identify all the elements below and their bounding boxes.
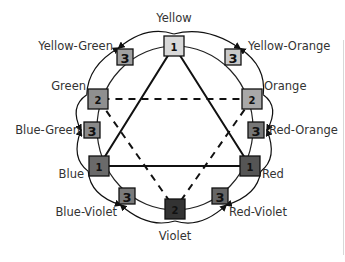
color-node-blue-violet: 3	[119, 188, 135, 205]
level-number: 1	[171, 42, 178, 53]
level-number: 1	[96, 162, 103, 173]
color-label-red-orange: Red-Orange	[269, 123, 338, 137]
level-number: 2	[249, 95, 256, 106]
color-label-orange: Orange	[264, 79, 307, 93]
color-label-red: Red	[262, 167, 284, 181]
color-node-red-orange: 3	[248, 122, 264, 139]
level-number: 3	[120, 51, 129, 66]
page-edge-divider	[343, 40, 344, 255]
color-label-blue-violet: Blue-Violet	[55, 205, 117, 219]
color-label-green: Green	[51, 79, 86, 93]
color-label-violet: Violet	[159, 229, 192, 243]
mixing-arrows	[76, 31, 273, 223]
level-number: 3	[87, 124, 96, 139]
color-label-yellow-orange: Yellow-Orange	[247, 39, 330, 53]
color-label-yellow-green: Yellow-Green	[37, 39, 113, 53]
color-label-blue: Blue	[59, 167, 84, 181]
color-wheel-canvas: 132313231323 YellowYellow-OrangeOrangeRe…	[0, 0, 345, 262]
color-node-green: 2	[88, 89, 108, 109]
color-label-yellow: Yellow	[155, 11, 191, 25]
color-node-red: 1	[240, 156, 260, 176]
color-label-red-violet: Red-Violet	[229, 205, 287, 219]
level-number: 3	[122, 190, 131, 205]
color-node-blue: 1	[89, 156, 109, 176]
color-node-yellow: 1	[164, 36, 184, 56]
level-number: 3	[228, 51, 237, 66]
color-label-blue-green: Blue-Green	[15, 123, 80, 137]
level-number: 2	[95, 95, 102, 106]
color-node-red-violet: 3	[212, 188, 228, 205]
level-number: 3	[251, 124, 260, 139]
wheel-circle	[97, 46, 253, 210]
level-number: 2	[172, 205, 179, 216]
color-node-orange: 2	[242, 89, 262, 109]
color-node-yellow-orange: 3	[225, 49, 241, 66]
wheel-ring	[97, 46, 253, 210]
color-node-violet: 2	[165, 199, 185, 219]
mix-arrow-icon	[87, 48, 119, 95]
color-node-blue-green: 3	[84, 122, 100, 139]
color-nodes: 132313231323	[84, 36, 264, 219]
level-number: 1	[247, 162, 254, 173]
color-wheel-diagram: 132313231323 YellowYellow-OrangeOrangeRe…	[0, 0, 345, 262]
color-node-yellow-green: 3	[117, 49, 133, 66]
level-number: 3	[215, 190, 224, 205]
triangles	[98, 46, 252, 209]
